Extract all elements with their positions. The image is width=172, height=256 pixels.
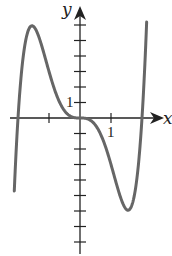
x-axis-label: x [163, 108, 172, 128]
plot-area: x y 1 1 [0, 0, 172, 256]
y-tick-label-1: 1 [66, 94, 74, 110]
x-tick-label-1: 1 [107, 124, 115, 140]
graph: x y 1 1 [0, 0, 172, 256]
y-axis-label: y [61, 0, 72, 19]
